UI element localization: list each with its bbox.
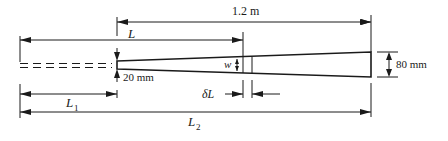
label-total-length: 1.2 m — [232, 4, 260, 18]
label-L2: L — [187, 114, 195, 129]
label-L1-subscript: 1 — [74, 103, 79, 113]
label-L1: L — [65, 95, 73, 110]
label-L2-subscript: 2 — [196, 122, 201, 132]
label-deltaL: δL — [202, 87, 215, 101]
label-w: w — [224, 58, 232, 70]
label-narrow-width: 20 mm — [123, 71, 154, 83]
label-wide-width: 80 mm — [396, 58, 427, 70]
label-L: L — [127, 26, 135, 41]
tapered-beam — [117, 52, 371, 77]
tapered-beam-diagram: 1.2 m L 20 mm w 80 mm δL L 1 L 2 — [0, 0, 448, 141]
